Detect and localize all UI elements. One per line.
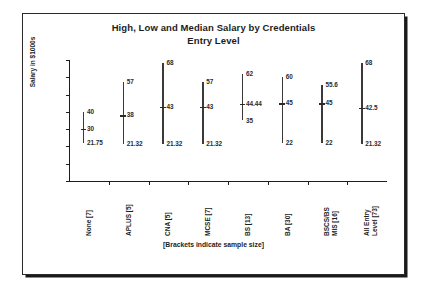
chart-title-line-2: Entry Level bbox=[23, 35, 404, 48]
x-axis-category-label: None [7] bbox=[85, 210, 93, 236]
low-value-label: 21.32 bbox=[166, 141, 182, 148]
median-value-label: 45 bbox=[325, 100, 332, 107]
high-value-label: 60 bbox=[286, 74, 293, 81]
median-marker bbox=[120, 115, 126, 116]
category-label-line: BA [30] bbox=[284, 213, 292, 236]
range-bar bbox=[321, 85, 322, 143]
y-axis-title: Salary in $1000s bbox=[29, 22, 36, 102]
low-value-label: 21.32 bbox=[365, 141, 381, 148]
category-label-line: BSCS/BS bbox=[323, 207, 331, 236]
chart-title: High, Low and Median Salary by Credentia… bbox=[23, 22, 404, 47]
median-value-label: 45 bbox=[286, 100, 293, 107]
x-axis-tick-mark bbox=[268, 182, 269, 186]
x-axis-category-label: BS [13] bbox=[244, 214, 252, 236]
low-value-label: 22 bbox=[325, 139, 332, 146]
range-bar bbox=[282, 77, 283, 143]
x-axis-caption: [Brackets indicate sample size] bbox=[23, 241, 404, 248]
x-axis-category-label: CNA [5] bbox=[164, 212, 172, 236]
category-label-line: APLUS [5] bbox=[125, 204, 133, 236]
low-value-label: 22 bbox=[286, 139, 293, 146]
median-marker bbox=[279, 103, 285, 104]
median-value-label: 30 bbox=[87, 126, 94, 133]
low-value-label: 21.32 bbox=[206, 141, 222, 148]
x-axis-tick-mark bbox=[188, 182, 189, 186]
category-label-line: All Entry bbox=[363, 206, 371, 236]
range-bar bbox=[361, 63, 362, 144]
x-axis-tick-mark bbox=[149, 182, 150, 186]
x-axis-tick-mark bbox=[308, 182, 309, 186]
range-bar bbox=[242, 74, 243, 121]
range-bar bbox=[83, 112, 84, 144]
high-value-label: 62 bbox=[246, 70, 253, 77]
category-label-line: BS [13] bbox=[244, 214, 252, 236]
median-marker bbox=[81, 129, 87, 130]
category-label-line: MCSE [7] bbox=[204, 207, 212, 236]
median-value-label: 44.44 bbox=[246, 101, 262, 108]
chart-frame: High, Low and Median Salary by Credentia… bbox=[22, 13, 405, 275]
median-marker bbox=[240, 104, 246, 105]
range-bar bbox=[123, 82, 124, 144]
low-value-label: 21.32 bbox=[127, 141, 143, 148]
y-axis-tick-mark bbox=[66, 181, 70, 182]
chart-title-line-1: High, Low and Median Salary by Credentia… bbox=[23, 22, 404, 35]
median-value-label: 42.5 bbox=[365, 104, 377, 111]
x-axis-category-label: All EntryLevel [73] bbox=[363, 206, 378, 236]
median-value-label: 43 bbox=[166, 103, 173, 110]
x-axis-category-label: MCSE [7] bbox=[204, 207, 212, 236]
category-label-line: Level [73] bbox=[371, 206, 379, 236]
median-value-label: 43 bbox=[206, 103, 213, 110]
x-axis-tick-mark bbox=[347, 182, 348, 186]
range-bar bbox=[202, 82, 203, 144]
median-value-label: 38 bbox=[127, 112, 134, 119]
low-value-label: 35 bbox=[246, 117, 253, 124]
plot-area: 403021.75573821.32684321.32574321.326244… bbox=[69, 60, 387, 181]
median-marker bbox=[359, 108, 365, 109]
high-value-label: 57 bbox=[206, 79, 213, 86]
category-label-line: None [7] bbox=[85, 210, 93, 236]
high-value-label: 40 bbox=[87, 108, 94, 115]
x-axis-category-label: BA [30] bbox=[284, 213, 292, 236]
high-value-label: 68 bbox=[365, 60, 372, 67]
category-label-line: CNA [5] bbox=[164, 212, 172, 236]
median-marker bbox=[319, 103, 325, 104]
x-axis-category-label: APLUS [5] bbox=[125, 204, 133, 236]
median-marker bbox=[160, 107, 166, 108]
high-value-label: 57 bbox=[127, 79, 134, 86]
x-axis-tick-mark bbox=[228, 182, 229, 186]
low-value-label: 21.75 bbox=[87, 140, 103, 147]
high-value-label: 55.6 bbox=[325, 81, 337, 88]
high-value-label: 68 bbox=[166, 60, 173, 67]
median-marker bbox=[200, 107, 206, 108]
range-bar bbox=[162, 63, 163, 144]
category-label-line: MIS [16] bbox=[331, 207, 339, 236]
salary-range-chart: High, Low and Median Salary by Credentia… bbox=[23, 14, 404, 274]
x-axis-category-label: BSCS/BSMIS [16] bbox=[323, 207, 338, 236]
x-axis-tick-mark bbox=[109, 182, 110, 186]
